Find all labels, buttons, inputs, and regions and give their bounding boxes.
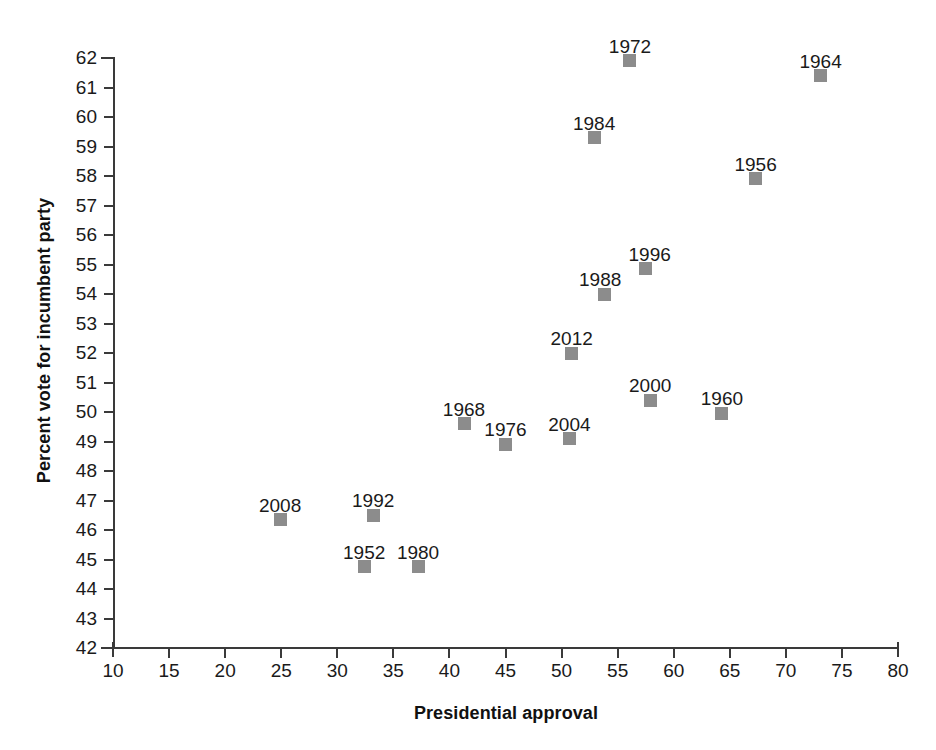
y-tick-mark xyxy=(104,234,113,236)
x-tick-label: 25 xyxy=(251,661,311,680)
x-tick-mark xyxy=(617,649,619,658)
x-tick-mark xyxy=(785,649,787,658)
data-point-label: 1968 xyxy=(419,400,509,419)
data-point-label: 2012 xyxy=(527,329,617,348)
y-tick-mark xyxy=(104,87,113,89)
data-point-label: 1984 xyxy=(549,114,639,133)
y-tick-mark xyxy=(104,500,113,502)
data-point-label: 1996 xyxy=(605,245,695,264)
x-tick-label: 35 xyxy=(363,661,423,680)
y-tick-mark xyxy=(104,116,113,118)
y-tick-mark xyxy=(104,470,113,472)
y-tick-mark xyxy=(104,529,113,531)
x-tick-mark xyxy=(505,649,507,658)
data-point-label: 2000 xyxy=(605,376,695,395)
x-tick-label: 20 xyxy=(195,661,255,680)
x-tick-mark xyxy=(280,649,282,658)
data-point-label: 2004 xyxy=(524,415,614,434)
data-point-label: 2008 xyxy=(235,496,325,515)
y-tick-mark xyxy=(104,205,113,207)
x-tick-label: 30 xyxy=(307,661,367,680)
y-tick-mark xyxy=(104,146,113,148)
x-tick-mark xyxy=(168,649,170,658)
x-tick-label: 10 xyxy=(83,661,143,680)
x-tick-mark xyxy=(561,649,563,658)
data-point-label: 1980 xyxy=(373,543,463,562)
x-tick-mark xyxy=(448,649,450,658)
x-tick-label: 70 xyxy=(756,661,816,680)
data-point-label: 1992 xyxy=(328,491,418,510)
y-tick-mark xyxy=(104,588,113,590)
y-tick-mark xyxy=(104,175,113,177)
x-tick-label: 15 xyxy=(139,661,199,680)
x-tick-label: 80 xyxy=(868,661,928,680)
x-tick-label: 60 xyxy=(644,661,704,680)
x-tick-label: 40 xyxy=(419,661,479,680)
data-point-label: 1972 xyxy=(585,37,675,56)
x-tick-label: 45 xyxy=(476,661,536,680)
data-point-label: 1988 xyxy=(555,270,645,289)
x-tick-mark xyxy=(673,649,675,658)
y-tick-mark xyxy=(104,323,113,325)
x-tick-mark xyxy=(729,649,731,658)
x-tick-mark xyxy=(336,649,338,658)
x-tick-label: 55 xyxy=(588,661,648,680)
y-tick-mark xyxy=(104,264,113,266)
y-tick-mark xyxy=(104,411,113,413)
data-point-label: 1964 xyxy=(776,52,866,71)
x-axis-title: Presidential approval xyxy=(113,703,899,724)
x-tick-mark xyxy=(224,649,226,658)
x-tick-label: 75 xyxy=(812,661,872,680)
x-tick-mark xyxy=(392,649,394,658)
data-point-label: 1956 xyxy=(711,155,801,174)
plot-area xyxy=(113,58,898,648)
y-tick-mark xyxy=(104,618,113,620)
x-tick-label: 65 xyxy=(700,661,760,680)
y-axis-title: Percent vote for incumbent party xyxy=(34,61,55,621)
y-tick-label: 42 xyxy=(0,638,97,657)
y-tick-mark xyxy=(104,559,113,561)
y-tick-mark xyxy=(104,382,113,384)
y-tick-mark xyxy=(104,441,113,443)
x-tick-mark xyxy=(841,649,843,658)
scatter-chart: 4243444546474849505152535455565758596061… xyxy=(0,0,936,750)
y-tick-mark xyxy=(104,293,113,295)
x-tick-label: 50 xyxy=(532,661,592,680)
y-tick-mark xyxy=(104,352,113,354)
